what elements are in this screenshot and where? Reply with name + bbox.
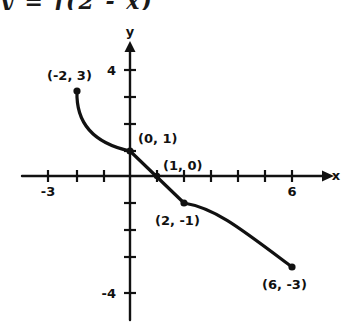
x-axis-label: x [332, 168, 341, 183]
x-tick-label-neg3: -3 [41, 184, 55, 199]
point-label-1-0: (1, 0) [163, 158, 202, 173]
coordinate-plane: x y -3 [0, 0, 345, 334]
point-label-neg2-3: (-2, 3) [47, 68, 92, 83]
y-tick-label-4: 4 [107, 63, 116, 78]
graph-figure: y = f(2 - x) x y [0, 0, 345, 334]
data-point [180, 199, 187, 206]
point-label-0-1: (0, 1) [138, 131, 177, 146]
x-tick-label-6: 6 [287, 184, 296, 199]
y-axis-arrow-icon [125, 41, 136, 52]
data-point [73, 87, 80, 94]
data-point [154, 173, 160, 179]
point-label-2-1: (2, -1) [155, 213, 200, 228]
y-tick-label-neg4: -4 [102, 286, 116, 301]
y-axis-label: y [126, 24, 135, 39]
data-point [126, 147, 133, 154]
data-point [288, 263, 295, 270]
point-label-6-3: (6, -3) [262, 277, 307, 292]
